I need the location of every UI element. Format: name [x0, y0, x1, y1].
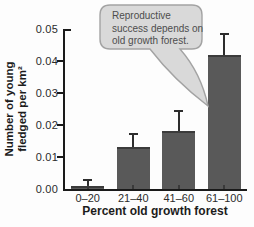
callout-text-line3: old growth forest. [112, 35, 204, 48]
y-top-tick-mark [65, 29, 71, 31]
y-tick-mark [57, 60, 63, 62]
y-tick-mark [57, 92, 63, 94]
y-tick-label: 0.04 [18, 55, 58, 67]
y-tick-mark [57, 124, 63, 126]
bar [117, 147, 150, 189]
x-tick-mark [87, 185, 89, 189]
y-tick-label: 0.05 [18, 23, 58, 35]
callout-text-line1: Reproductive [112, 10, 204, 23]
x-tick-mark [132, 185, 134, 189]
y-tick-label: 0.03 [18, 87, 58, 99]
bar [208, 55, 241, 189]
error-bar-cap [220, 33, 229, 35]
error-bar-cap [129, 133, 138, 135]
callout-text-line2: success depends on [112, 23, 204, 36]
error-bar [178, 112, 180, 131]
y-tick-mark [57, 156, 63, 158]
x-tick-mark [178, 185, 180, 189]
error-bar-cap [174, 110, 183, 112]
x-tick-mark [223, 185, 225, 189]
x-axis-title: Percent old growth forest [63, 204, 247, 218]
error-bar-cap [83, 179, 92, 181]
y-tick-label: 0.01 [18, 151, 58, 163]
y-axis-title-line1: Number of young [3, 48, 16, 170]
bar [162, 131, 195, 189]
y-tick-label: 0.02 [18, 119, 58, 131]
error-bar [132, 135, 134, 148]
y-tick-label: 0.00 [18, 183, 58, 195]
plot-area [63, 29, 247, 191]
callout-text: Reproductive success depends on old grow… [112, 10, 204, 48]
error-bar [223, 35, 225, 54]
figure: Number of young fledged per km² Percent … [0, 0, 254, 227]
x-tick-label: 61–100 [194, 192, 254, 204]
